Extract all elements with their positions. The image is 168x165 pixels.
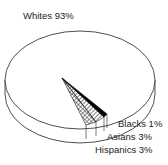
label-whites: Whites 93% <box>23 10 74 21</box>
label-hispanics: Hispanics 3% <box>95 144 153 155</box>
label-blacks: Blacks 1% <box>118 118 162 129</box>
label-asians: Asians 3% <box>107 131 152 142</box>
pie-top <box>5 31 155 129</box>
